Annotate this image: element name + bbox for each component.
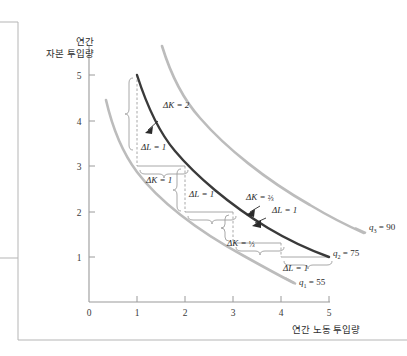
y-tick-4: 4 bbox=[77, 117, 82, 127]
annotation-delta-k-2: ΔK = 1 bbox=[146, 175, 172, 185]
x-tick-3: 3 bbox=[231, 308, 236, 318]
curve-label-q2-value: 75 bbox=[350, 248, 359, 258]
annotation-delta-l-1-value: 1 bbox=[162, 142, 167, 152]
y-tick-1: 1 bbox=[77, 253, 82, 263]
x-tick-5: 5 bbox=[327, 308, 332, 318]
x-axis-ticks bbox=[137, 296, 329, 302]
annotation-delta-k-4-value: ⅓ bbox=[249, 240, 255, 249]
y-axis-title: 연간 자본 투입량 bbox=[18, 36, 94, 60]
annotation-delta-k-1-prefix: ΔK = bbox=[163, 100, 185, 110]
x-tick-0: 0 bbox=[87, 308, 92, 318]
annotation-delta-k-1: ΔK = 2 bbox=[163, 100, 189, 110]
annotation-delta-l-3-prefix: ΔL = bbox=[272, 205, 293, 215]
x-axis-title: 연간 노동 투입량 bbox=[292, 324, 360, 336]
annotation-delta-l-4-prefix: ΔL = bbox=[283, 263, 304, 273]
annotation-delta-k-2-value: 1 bbox=[168, 175, 173, 185]
annotation-delta-k-4-prefix: ΔK = bbox=[227, 238, 249, 248]
y-tick-5: 5 bbox=[77, 71, 82, 81]
isoquant-figure: 5 4 3 2 1 0 1 2 3 4 5 연간 자본 투입량 연간 노동 투입… bbox=[0, 0, 407, 356]
x-tick-4: 4 bbox=[279, 308, 284, 318]
annotation-delta-l-3: ΔL = 1 bbox=[272, 205, 297, 215]
curve-label-q3-sub: 3 bbox=[374, 228, 377, 234]
curve-label-q3-value: 90 bbox=[386, 222, 395, 232]
isoquant-q3-curve bbox=[162, 46, 364, 233]
annotation-delta-k-3-prefix: ΔK = bbox=[246, 192, 268, 202]
annotation-delta-l-4: ΔL = 1 bbox=[283, 263, 308, 273]
annotation-delta-k-4: ΔK = ⅓ bbox=[227, 238, 255, 249]
annotation-delta-l-3-value: 1 bbox=[293, 205, 298, 215]
annotation-delta-k-3: ΔK = ⅔ bbox=[246, 192, 274, 203]
y-tick-2: 2 bbox=[77, 208, 82, 218]
annotation-delta-k-3-value: ⅔ bbox=[268, 194, 274, 203]
curve-label-q2-sub: 2 bbox=[338, 254, 341, 260]
annotation-delta-l-2-value: 1 bbox=[210, 189, 215, 199]
curve-label-q1-sub: 1 bbox=[304, 283, 307, 289]
annotation-delta-l-1-prefix: ΔL = bbox=[141, 142, 162, 152]
curve-label-q1-value: 55 bbox=[316, 277, 325, 287]
annotation-delta-l-1: ΔL = 1 bbox=[141, 142, 166, 152]
annotation-delta-k-2-prefix: ΔK = bbox=[146, 175, 168, 185]
y-axis-title-line2: 자본 투입량 bbox=[18, 48, 94, 60]
annotation-delta-l-2-prefix: ΔL = bbox=[189, 189, 210, 199]
x-tick-2: 2 bbox=[183, 308, 188, 318]
y-tick-3: 3 bbox=[77, 162, 82, 172]
curve-label-q3: q3 = 90 bbox=[369, 222, 395, 234]
x-tick-1: 1 bbox=[135, 308, 140, 318]
curve-label-q2: q2 = 75 bbox=[333, 248, 359, 260]
y-axis-title-line1: 연간 bbox=[18, 36, 94, 48]
curve-label-q1: q1 = 55 bbox=[299, 277, 325, 289]
annotation-delta-l-4-value: 1 bbox=[304, 263, 309, 273]
y-axis-ticks bbox=[89, 75, 95, 257]
annotation-delta-k-1-value: 2 bbox=[185, 100, 190, 110]
annotation-delta-l-2: ΔL = 1 bbox=[189, 189, 214, 199]
